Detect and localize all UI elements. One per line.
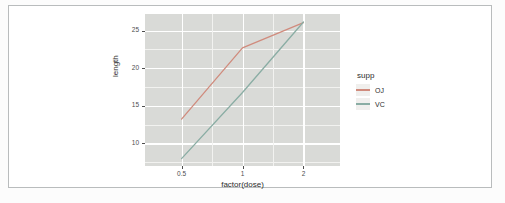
y-tick-label: 15 bbox=[119, 102, 139, 109]
scanned-page: length 10152025 0.512 factor(dose) supp … bbox=[0, 0, 505, 203]
y-tick-label: 20 bbox=[119, 65, 139, 72]
x-tick-mark bbox=[182, 166, 183, 169]
y-tick-label: 10 bbox=[119, 140, 139, 147]
legend: supp OJVC bbox=[356, 71, 416, 112]
legend-item-label: OJ bbox=[375, 87, 384, 94]
legend-item-oj[interactable]: OJ bbox=[356, 84, 416, 96]
ggplot-chart: length 10152025 0.512 factor(dose) supp … bbox=[8, 5, 492, 188]
x-tick-label: 0.5 bbox=[170, 171, 194, 178]
x-tick-mark bbox=[303, 166, 304, 169]
legend-key-swatch bbox=[356, 84, 370, 96]
legend-title: supp bbox=[357, 71, 416, 80]
legend-key-swatch bbox=[356, 98, 370, 110]
x-axis-title: factor(dose) bbox=[145, 180, 340, 189]
x-tick-mark bbox=[243, 166, 244, 169]
legend-item-label: VC bbox=[375, 101, 385, 108]
y-tick-label: 25 bbox=[119, 27, 139, 34]
series-line-oj bbox=[182, 23, 304, 120]
series-line-vc bbox=[182, 22, 304, 159]
x-tick-label: 2 bbox=[291, 171, 315, 178]
plot-panel bbox=[145, 14, 340, 166]
legend-item-vc[interactable]: VC bbox=[356, 98, 416, 110]
legend-line-sample bbox=[356, 103, 370, 105]
x-tick-label: 1 bbox=[231, 171, 255, 178]
legend-line-sample bbox=[356, 89, 370, 91]
legend-items: OJVC bbox=[356, 84, 416, 110]
data-series-layer bbox=[145, 14, 340, 166]
